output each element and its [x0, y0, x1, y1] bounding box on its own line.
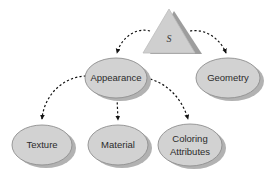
geometry-label: Geometry [207, 72, 249, 83]
coloring-attributes-label-line2: Attributes [170, 146, 210, 157]
appearance-label: Appearance [90, 72, 141, 83]
node-root[interactable]: S [143, 9, 202, 54]
node-coloring-attributes[interactable]: Coloring Attributes [158, 124, 226, 169]
node-material[interactable]: Material [88, 125, 152, 168]
scene-graph-diagram: S Appearance Geometry Texture Material [0, 0, 274, 174]
diagram-canvas: S Appearance Geometry Texture Material [0, 0, 274, 174]
material-label: Material [101, 139, 135, 150]
node-geometry[interactable]: Geometry [196, 58, 264, 101]
node-texture[interactable]: Texture [12, 125, 76, 168]
node-appearance[interactable]: Appearance [85, 58, 151, 101]
coloring-attributes-label-line1: Coloring [172, 133, 207, 144]
edge-appearance-to-material [117, 98, 118, 120]
texture-label: Texture [26, 139, 57, 150]
triangle-shape [143, 9, 195, 53]
edge-appearance-to-coloring [146, 78, 188, 119]
edge-appearance-to-texture [42, 76, 86, 119]
root-label: S [167, 33, 172, 44]
